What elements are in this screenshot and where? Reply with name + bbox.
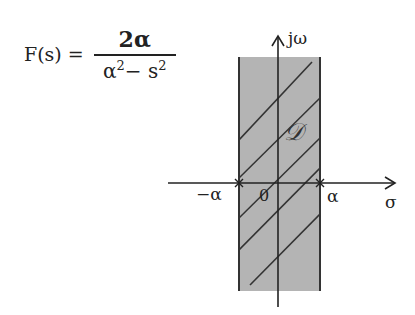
region-label: 𝒟 <box>284 118 303 146</box>
s-plane-diagram <box>0 0 415 315</box>
neg-alpha-label: −α <box>196 184 222 204</box>
real-axis-label: σ <box>385 192 397 212</box>
origin-label: 0 <box>259 186 269 205</box>
pos-alpha-label: α <box>327 186 338 206</box>
imaginary-axis-label: jω <box>288 28 307 48</box>
